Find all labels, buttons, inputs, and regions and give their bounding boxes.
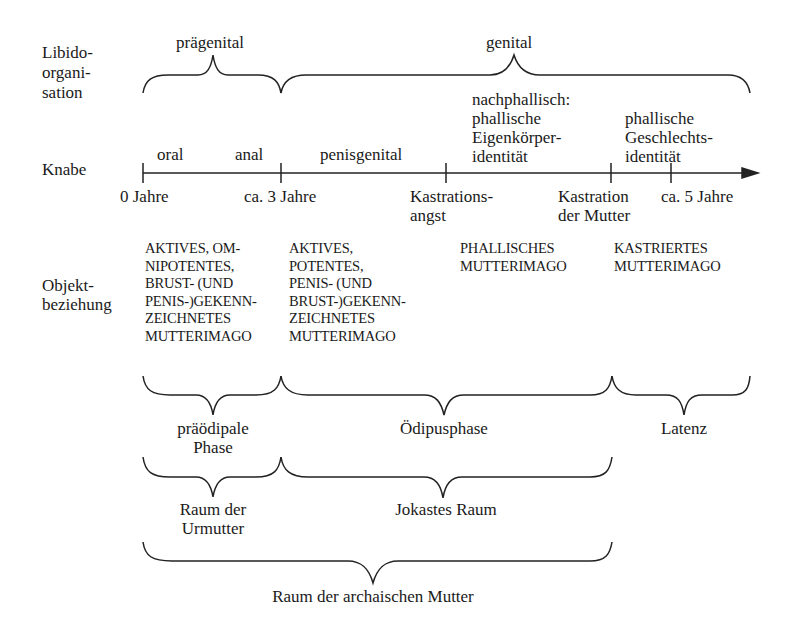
objekt-col-praeoedipal: AKTIVES, OM- NIPOTENTES, BRUST- (UND PEN…	[145, 240, 257, 345]
tick-label-5-jahre: ca. 5 Jahre	[661, 187, 733, 206]
row-label-knabe: Knabe	[42, 160, 86, 179]
tick-label-0-jahre: 0 Jahre	[120, 187, 169, 206]
row-label-libidoorganisation: Libido- organi- sation	[42, 43, 93, 103]
brace-genital	[281, 55, 750, 93]
phase-anal: anal	[235, 145, 263, 164]
label-raum-urmutter: Raum der Urmutter	[158, 500, 268, 538]
tick-label-3-jahre: ca. 3 Jahre	[244, 187, 316, 206]
row-label-objektbeziehung: Objekt- beziehung	[42, 276, 112, 314]
objekt-col-phallisch: PHALLISCHES MUTTERIMAGO	[460, 240, 567, 275]
brace-jokaste	[281, 457, 612, 498]
label-genital: genital	[486, 33, 532, 52]
brace-urmutter	[143, 457, 281, 497]
brace-archaische-mutter	[143, 542, 612, 583]
label-raum-archaische-mutter: Raum der archaischen Mutter	[253, 587, 493, 606]
timeline-arrowhead	[742, 168, 758, 178]
brace-oedipus	[281, 376, 612, 415]
phase-penisgenital: penisgenital	[320, 145, 402, 164]
brace-praeoedipal	[143, 376, 281, 415]
label-latenz: Latenz	[644, 419, 724, 438]
phase-oral: oral	[157, 145, 183, 164]
brace-latenz	[612, 376, 750, 415]
objekt-col-penisgenital: AKTIVES, POTENTES, PENIS- (UND BRUST-)GE…	[289, 240, 406, 345]
tick-label-kastration-mutter: Kastration der Mutter	[558, 187, 630, 225]
phase-phallische-geschlechtsidentitaet: phallische Geschlechts- identität	[625, 109, 713, 166]
label-jokastes-raum: Jokastes Raum	[376, 500, 516, 519]
brace-praegenital	[143, 55, 281, 93]
objekt-col-kastriert: KASTRIERTES MUTTERIMAGO	[614, 240, 721, 275]
phase-nachphallisch: nachphallisch: phallische Eigenkörper- i…	[472, 90, 570, 166]
tick-label-kastrationsangst: Kastrations- angst	[410, 187, 493, 225]
label-praegenital: prägenital	[176, 33, 244, 52]
label-oedipusphase: Ödipusphase	[384, 419, 504, 438]
label-praeoedipale-phase: präödipale Phase	[153, 419, 273, 457]
